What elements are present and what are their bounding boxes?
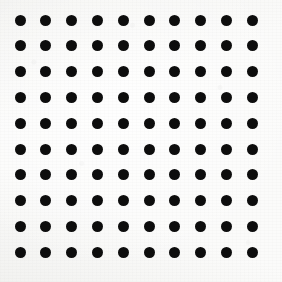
dot (92, 92, 103, 103)
dot (15, 169, 26, 180)
dot (66, 221, 77, 232)
dot (247, 144, 258, 155)
dot (247, 169, 258, 180)
dot (92, 40, 103, 51)
dot (40, 247, 51, 258)
dot (169, 195, 180, 206)
dot (40, 169, 51, 180)
dot (195, 144, 206, 155)
dot (92, 66, 103, 77)
dot (15, 144, 26, 155)
dot (247, 247, 258, 258)
dot (92, 118, 103, 129)
dot (169, 92, 180, 103)
dot (40, 221, 51, 232)
dot (144, 92, 155, 103)
dot (40, 195, 51, 206)
dot (15, 118, 26, 129)
dot (118, 221, 129, 232)
dot (169, 118, 180, 129)
dot (118, 195, 129, 206)
dot (144, 15, 155, 26)
dot (221, 221, 232, 232)
dot (66, 66, 77, 77)
dot (92, 247, 103, 258)
dot (40, 144, 51, 155)
dot (15, 92, 26, 103)
dot (247, 66, 258, 77)
dot (118, 66, 129, 77)
dot (92, 169, 103, 180)
dot (92, 15, 103, 26)
dot (221, 66, 232, 77)
dot (40, 40, 51, 51)
dot (144, 195, 155, 206)
dot (66, 169, 77, 180)
dot (118, 169, 129, 180)
dot (144, 169, 155, 180)
dot (247, 92, 258, 103)
dot (169, 247, 180, 258)
dot (118, 92, 129, 103)
dot (247, 118, 258, 129)
dot (118, 15, 129, 26)
dot (169, 15, 180, 26)
dot (247, 221, 258, 232)
dot (221, 195, 232, 206)
dot (118, 118, 129, 129)
dot (195, 247, 206, 258)
dot (15, 40, 26, 51)
dot (15, 195, 26, 206)
dot (221, 92, 232, 103)
dot (118, 247, 129, 258)
dot (195, 66, 206, 77)
dot (247, 40, 258, 51)
dot (66, 15, 77, 26)
dot (15, 221, 26, 232)
dot (40, 15, 51, 26)
dot (221, 15, 232, 26)
dot (195, 221, 206, 232)
dot (15, 66, 26, 77)
dot (92, 195, 103, 206)
dot (195, 195, 206, 206)
dot (144, 66, 155, 77)
dot (144, 144, 155, 155)
dot (221, 169, 232, 180)
dot (40, 66, 51, 77)
dot (66, 40, 77, 51)
dot (92, 144, 103, 155)
dot (169, 66, 180, 77)
dot (144, 221, 155, 232)
dot (169, 169, 180, 180)
dot (66, 118, 77, 129)
dot (169, 40, 180, 51)
dot (66, 92, 77, 103)
dot (92, 221, 103, 232)
dot (40, 92, 51, 103)
dot (195, 118, 206, 129)
dot (66, 144, 77, 155)
dot (221, 247, 232, 258)
dot (195, 40, 206, 51)
dot (221, 118, 232, 129)
dot (15, 247, 26, 258)
dot (144, 247, 155, 258)
dot (66, 195, 77, 206)
polka-dot-pattern-image (0, 0, 282, 282)
dot (66, 247, 77, 258)
dot (118, 144, 129, 155)
dot (169, 144, 180, 155)
dot (247, 15, 258, 26)
dot (118, 40, 129, 51)
dot (247, 195, 258, 206)
dot (169, 221, 180, 232)
dot (195, 169, 206, 180)
dot (195, 15, 206, 26)
dot (195, 92, 206, 103)
dot-grid-layer (0, 0, 282, 282)
dot (144, 40, 155, 51)
dot (15, 15, 26, 26)
dot (221, 40, 232, 51)
dot (40, 118, 51, 129)
